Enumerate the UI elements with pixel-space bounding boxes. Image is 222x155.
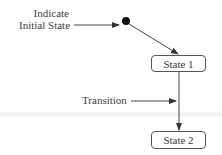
transition-label: Transition xyxy=(82,94,127,106)
state-2-box: State 2 xyxy=(151,131,206,149)
state-1-box: State 1 xyxy=(151,55,206,72)
initial-state-label-line1: Indicate xyxy=(19,7,69,19)
state-2-label: State 2 xyxy=(163,134,193,146)
initial-to-state1-edge xyxy=(129,24,178,54)
initial-state-label: Indicate Initial State xyxy=(19,7,69,31)
state-1-label: State 1 xyxy=(163,58,193,70)
initial-state-dot-icon xyxy=(122,17,130,25)
initial-state-label-line2: Initial State xyxy=(19,19,69,31)
